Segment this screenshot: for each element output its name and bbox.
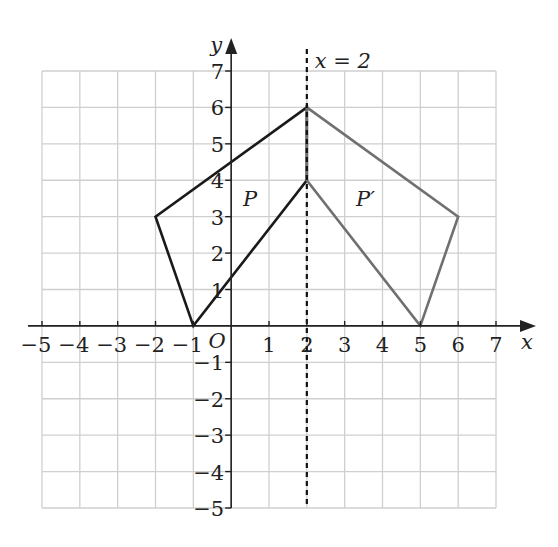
x-tick-label: 2 [300,333,313,357]
x-tick-label: −2 [134,333,165,357]
shape-label-P: P [242,187,258,211]
x-tick-label: −3 [96,333,127,357]
x-tick-label: 1 [262,333,275,357]
x-axis-label: x [521,330,533,354]
origin-label: O [209,329,226,353]
shape-label-P-prime: P′ [355,187,375,211]
y-tick-label: −1 [193,351,224,375]
y-tick-label: 3 [211,206,224,230]
y-tick-label: −4 [193,461,224,485]
mirror-line-label: x = 2 [315,49,371,73]
x-tick-label: −4 [58,333,89,357]
y-tick-label: −2 [193,388,224,412]
y-tick-label: 5 [211,133,224,157]
x-tick-label: 3 [338,333,351,357]
x-tick-label: 4 [376,333,389,357]
y-tick-label: 7 [211,60,224,84]
y-tick-label: 4 [211,169,224,193]
y-tick-label: −5 [193,497,224,521]
x-tick-label: 5 [414,333,427,357]
y-tick-label: 6 [211,96,224,120]
y-axis-label: y [209,33,223,57]
y-tick-label: 2 [211,242,224,266]
x-tick-label: −5 [21,333,52,357]
grid [42,71,496,508]
x-tick-label: 7 [489,333,502,357]
y-axis-arrow-icon [225,38,237,54]
axes [28,38,536,508]
x-tick-label: 6 [451,333,464,357]
y-tick-label: −3 [193,424,224,448]
reflection-diagram: −5−4−3−2−112345677654321−1−2−3−4−5Oxyx =… [0,0,558,547]
labels: −5−4−3−2−112345677654321−1−2−3−4−5Oxyx =… [21,33,534,521]
y-tick-label: 1 [211,279,224,303]
